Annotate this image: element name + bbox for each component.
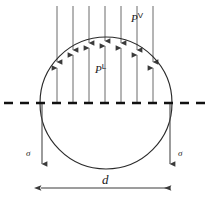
droplet-force-balance-figure: PV PL σ σ d — [0, 0, 212, 198]
figure-canvas: PV PL σ σ d — [0, 0, 212, 198]
vapor-pressure-label: PV — [130, 11, 144, 24]
liquid-pressure-arrow-group — [57, 46, 153, 103]
surface-tension-arrow-group — [42, 103, 170, 164]
sigma-label-left: σ — [26, 148, 31, 158]
sigma-label-right: σ — [178, 148, 183, 158]
vapor-pressure-label-superscript: V — [138, 11, 144, 20]
diameter-label: d — [102, 172, 109, 187]
liquid-pressure-label-superscript: L — [102, 62, 107, 71]
